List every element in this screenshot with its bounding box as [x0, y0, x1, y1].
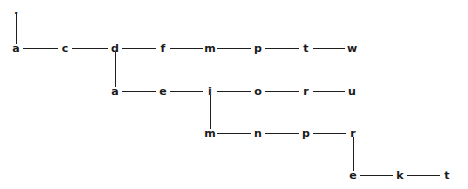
edge-horizontal [122, 91, 156, 92]
edge-horizontal [122, 48, 156, 49]
node-letter: f [157, 43, 169, 54]
edge-horizontal [265, 133, 299, 134]
node-letter: t [300, 43, 312, 54]
node-letter: k [394, 170, 406, 181]
node-letter: i [204, 86, 216, 97]
edge-horizontal [72, 48, 108, 49]
node-letter: a [109, 86, 121, 97]
edge-vertical [353, 137, 354, 171]
node-letter: p [252, 43, 264, 54]
node-letter: p [300, 128, 312, 139]
letter-chain-diagram: .acdfmptwaeiorumnprekt [0, 0, 468, 189]
node-letter: w [346, 43, 358, 54]
node-root-dot: . [10, 5, 22, 16]
node-letter: o [252, 86, 264, 97]
node-letter: a [10, 43, 22, 54]
edge-horizontal [217, 133, 251, 134]
edge-horizontal [23, 48, 58, 49]
edge-horizontal [313, 133, 346, 134]
edge-horizontal [170, 91, 203, 92]
edge-horizontal [217, 48, 251, 49]
node-letter: u [346, 86, 358, 97]
edge-horizontal [217, 91, 251, 92]
edge-horizontal [313, 48, 345, 49]
edge-horizontal [313, 91, 345, 92]
node-letter: m [204, 128, 216, 139]
node-letter: e [157, 86, 169, 97]
node-letter: d [109, 43, 121, 54]
node-letter: r [347, 128, 359, 139]
edge-horizontal [170, 48, 203, 49]
node-letter: e [347, 170, 359, 181]
node-letter: m [204, 43, 216, 54]
edge-horizontal [407, 175, 440, 176]
edge-horizontal [265, 48, 299, 49]
node-letter: c [59, 43, 71, 54]
edge-horizontal [360, 175, 393, 176]
node-letter: r [300, 86, 312, 97]
edge-horizontal [265, 91, 299, 92]
node-letter: n [252, 128, 264, 139]
edge-vertical [115, 52, 116, 87]
edge-vertical [210, 95, 211, 129]
node-letter: t [441, 170, 453, 181]
edge-vertical [16, 14, 17, 44]
